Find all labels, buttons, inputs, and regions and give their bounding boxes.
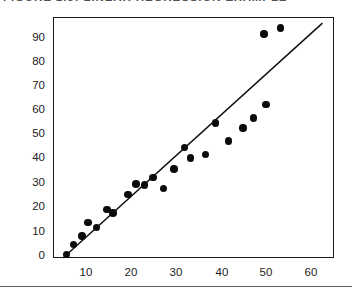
- x-tick-40: 40: [216, 266, 229, 278]
- x-tick-20: 20: [125, 266, 138, 278]
- page-footer-rule: [0, 286, 352, 287]
- x-tick-30: 30: [170, 266, 183, 278]
- x-tick-60: 60: [305, 266, 318, 278]
- x-axis-tick-labels: 10 20 30 40 50 60: [0, 0, 352, 303]
- figure-page: FIGURE 2.5: LINEAR REGRESSION EXAMPLE 90…: [0, 0, 352, 303]
- scatter-chart: 90 80 70 60 50 40 30 20 10 0: [0, 0, 352, 303]
- x-tick-50: 50: [260, 266, 273, 278]
- x-tick-10: 10: [80, 266, 93, 278]
